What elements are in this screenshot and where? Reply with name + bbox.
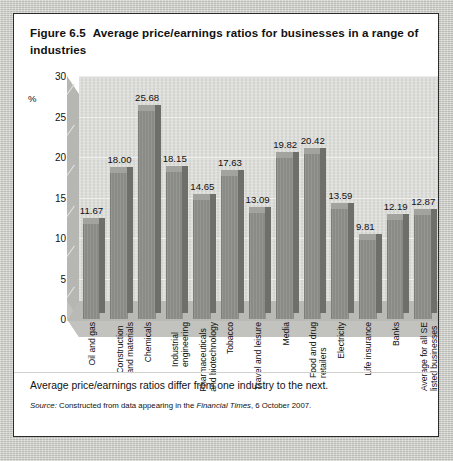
category-label-line: Industrial <box>170 322 180 367</box>
category-label-line: and materials <box>125 322 135 374</box>
category-label: Tobacco <box>225 322 235 354</box>
category-label: Life insurance <box>363 322 373 376</box>
y-axis-tick-20: 20 <box>20 152 66 163</box>
bar-value-label: 12.19 <box>384 201 408 212</box>
bar <box>138 111 155 319</box>
category-label-line: Chemicals <box>143 322 153 362</box>
bar-side-face <box>127 167 133 313</box>
source-publication: Financial Times <box>196 401 251 410</box>
bar-front-face <box>359 240 377 319</box>
category-label-line: Banks <box>391 322 401 346</box>
bar-side-face <box>155 105 161 313</box>
bar <box>83 224 100 319</box>
bar-top-face <box>331 203 348 209</box>
bar-value-label: 11.67 <box>80 205 103 216</box>
bar-side-face <box>265 207 271 313</box>
bar-side-face <box>431 209 437 313</box>
bar-front-face <box>193 200 211 319</box>
category-label: Food and drugretailers <box>308 322 328 378</box>
y-axis-tick-25: 25 <box>20 111 66 122</box>
category-label-line: engineering <box>180 322 190 367</box>
bar <box>387 220 404 319</box>
y-axis-tick-10: 10 <box>20 233 66 244</box>
bar <box>331 209 348 319</box>
bar-top-face <box>304 148 321 154</box>
bar-top-face <box>110 167 127 173</box>
bar <box>221 176 238 319</box>
bar-side-face <box>403 214 409 313</box>
bar-front-face <box>414 215 432 319</box>
category-label: Electricity <box>336 322 346 359</box>
bar-front-face <box>387 220 405 319</box>
category-label-line: Media <box>281 322 291 345</box>
bar-side-face <box>376 234 382 313</box>
bar-value-label: 13.59 <box>328 190 352 201</box>
category-label: Banks <box>391 322 401 346</box>
bar-value-label: 25.68 <box>135 92 159 103</box>
bar-side-face <box>99 218 105 313</box>
figure-title-text: Average price/earnings ratios for busine… <box>30 26 418 56</box>
bar-side-face <box>348 203 354 313</box>
bar-side-face <box>238 170 244 313</box>
bar-top-face <box>193 194 210 200</box>
y-axis-tick-30: 30 <box>20 71 66 82</box>
bars-layer: 11.6718.0025.6818.1514.6517.6313.0919.82… <box>79 70 438 319</box>
bar-top-face <box>359 234 376 240</box>
source-text-before: Constructed from data appearing in the <box>57 401 197 410</box>
bar-side-face <box>293 152 299 313</box>
chart-area: % 051015202530 11.6718.0025.6818.1514.65… <box>14 70 438 370</box>
category-label: Oil and gas <box>87 322 97 365</box>
category-label-line: listed businesses <box>429 322 439 391</box>
bar-front-face <box>166 172 184 319</box>
source-label: Source: <box>30 401 57 410</box>
bar-front-face <box>249 213 267 319</box>
category-axis-labels: Oil and gasConstructionand materialsChem… <box>67 322 438 432</box>
category-label-line: Electricity <box>336 322 346 359</box>
category-label: Chemicals <box>143 322 153 362</box>
category-label: Industrialengineering <box>170 322 190 367</box>
category-label-line: retailers <box>318 322 328 378</box>
bar <box>276 158 293 319</box>
bar-value-label: 12.87 <box>411 196 435 207</box>
bar <box>414 215 431 319</box>
figure-number: Figure 6.5 <box>30 26 86 39</box>
bar-value-label: 20.42 <box>301 135 325 146</box>
bar-front-face <box>110 173 128 319</box>
category-label-line: Oil and gas <box>87 322 97 365</box>
bar <box>193 200 210 319</box>
bar-top-face <box>166 166 183 172</box>
y-axis-tick-5: 5 <box>20 273 66 284</box>
bar-top-face <box>83 218 100 224</box>
category-label: Constructionand materials <box>115 322 135 374</box>
bar-side-face <box>210 194 216 313</box>
bar-value-label: 18.15 <box>163 153 187 164</box>
figure-source: Source: Constructed from data appearing … <box>30 401 422 410</box>
caption-divider <box>14 372 438 373</box>
figure-title: Figure 6.5Average price/earnings ratios … <box>14 14 438 59</box>
category-label-line: Food and drug <box>308 322 318 378</box>
bar <box>249 213 266 319</box>
bar <box>359 240 376 319</box>
bar <box>110 173 127 319</box>
bar-value-label: 18.00 <box>107 154 131 165</box>
bar-side-face <box>320 148 326 313</box>
bar-top-face <box>414 209 431 215</box>
y-axis-tick-0: 0 <box>20 314 66 325</box>
bar-top-face <box>138 105 155 111</box>
bar-front-face <box>304 154 322 319</box>
bar-front-face <box>331 209 349 319</box>
bar-top-face <box>249 207 266 213</box>
source-text-after: , 6 October 2007. <box>251 401 311 410</box>
figure-container: Figure 6.5Average price/earnings ratios … <box>13 13 439 437</box>
bar-front-face <box>138 111 156 319</box>
bar-value-label: 19.82 <box>273 139 297 150</box>
bar-top-face <box>387 214 404 220</box>
bar-front-face <box>83 224 101 319</box>
bar <box>304 154 321 319</box>
bar-top-face <box>221 170 238 176</box>
bar-value-label: 17.63 <box>218 157 242 168</box>
bar-top-face <box>276 152 293 158</box>
category-label-line: Construction <box>115 322 125 374</box>
bar-side-face <box>182 166 188 313</box>
bar-value-label: 14.65 <box>190 181 214 192</box>
